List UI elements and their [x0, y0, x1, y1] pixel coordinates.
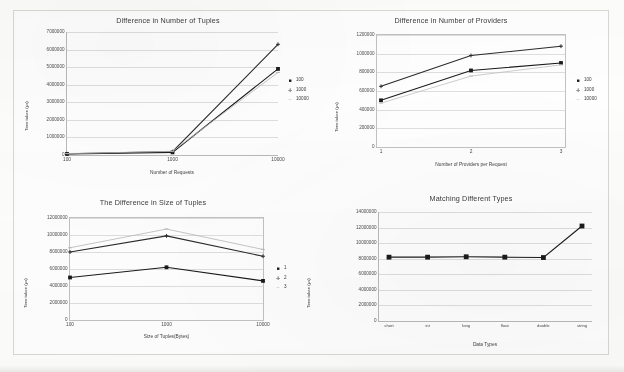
- x-axis-tick: 100: [63, 158, 71, 163]
- x-axis-label: Number of Requests: [66, 170, 278, 175]
- series-line: [381, 46, 561, 86]
- chart-title: Difference in Number of Providers: [340, 16, 562, 25]
- y-axis-tick: 5000000: [47, 65, 65, 70]
- data-point-marker: [387, 255, 392, 260]
- legend-label: 100: [584, 78, 592, 83]
- data-point-marker: [469, 54, 473, 58]
- legend-marker-icon: ■: [286, 78, 294, 83]
- y-axis-tick: 600000: [359, 89, 374, 94]
- y-axis-tick: 8000000: [50, 250, 68, 255]
- series-line: [70, 236, 263, 256]
- x-axis-tick: string: [577, 324, 587, 328]
- x-axis-tick: float: [501, 324, 509, 328]
- y-axis-tick: 12000000: [356, 225, 376, 230]
- series-line: [67, 72, 278, 153]
- data-point-marker: [469, 69, 473, 73]
- legend-label: 1000: [296, 88, 306, 93]
- data-point-marker: [261, 254, 265, 258]
- legend-item[interactable]: ■1: [274, 266, 287, 271]
- legend-label: 10000: [296, 97, 309, 102]
- y-axis-tick: 800000: [359, 70, 374, 75]
- y-axis-tick: 0: [374, 319, 377, 324]
- y-axis-tick: 4000000: [50, 284, 68, 289]
- series-line: [70, 267, 263, 281]
- data-point-marker: [464, 254, 469, 259]
- legend-item[interactable]: ■100: [286, 78, 309, 83]
- x-axis-tick: 2: [470, 150, 473, 155]
- chart-title: Matching Different Types: [350, 194, 592, 203]
- x-axis-tick: 1000: [167, 158, 178, 163]
- chart-difference-in-number-of-providers: Difference in Number of Providers Time t…: [330, 16, 612, 188]
- y-axis-tick: 3000000: [47, 100, 65, 105]
- series-layer: [67, 32, 278, 155]
- legend-label: 1000: [584, 88, 594, 93]
- legend-marker-icon: ✛: [274, 276, 282, 281]
- legend-item[interactable]: ✛2: [274, 276, 287, 281]
- y-axis-tick: 7000000: [47, 30, 65, 35]
- chart-the-difference-in-size-of-tuples: The Difference in Size of Tuples Time ta…: [18, 198, 318, 358]
- legend-marker-icon: ■: [274, 266, 282, 271]
- y-axis-tick: 2000000: [50, 301, 68, 306]
- legend-item[interactable]: ✛1000: [574, 88, 597, 93]
- x-axis-tick: 1000: [161, 323, 172, 328]
- y-axis-tick: 14000000: [356, 210, 376, 215]
- data-point-marker: [276, 67, 280, 71]
- page-bottom-shadow: [0, 365, 624, 372]
- chart-matching-different-types: Matching Different Types Time taken (µs)…: [330, 194, 612, 358]
- y-axis-tick: 4000000: [359, 288, 377, 293]
- chart-legend: ■100✛1000–10000: [286, 78, 309, 107]
- legend-marker-icon: –: [274, 285, 282, 290]
- legend-item[interactable]: –10000: [574, 97, 597, 102]
- y-axis-label: Time taken (µs): [24, 101, 29, 131]
- y-axis-tick: 200000: [359, 126, 374, 131]
- x-axis-label: Data Types: [378, 342, 592, 347]
- x-axis-tick: 1: [380, 150, 383, 155]
- plot-area: 0200000040000006000000800000010000000120…: [69, 217, 264, 321]
- legend-item[interactable]: ■100: [574, 78, 597, 83]
- y-axis-tick: 10000000: [47, 233, 67, 238]
- data-point-marker: [559, 61, 563, 65]
- y-axis-tick: 6000000: [47, 47, 65, 52]
- legend-label: 100: [296, 78, 304, 83]
- series-layer: [379, 212, 592, 321]
- data-point-marker: [379, 98, 383, 102]
- series-layer: [70, 218, 263, 320]
- y-axis-tick: 1000000: [357, 51, 375, 56]
- y-axis-tick: 12000000: [47, 216, 67, 221]
- data-point-marker: [165, 265, 169, 269]
- y-axis-tick: 0: [372, 145, 375, 150]
- legend-marker-icon: ■: [574, 78, 582, 83]
- y-axis-tick: 6000000: [359, 272, 377, 277]
- chart-legend: ■100✛1000–10000: [574, 78, 597, 107]
- legend-label: 10000: [584, 97, 597, 102]
- plot-area: 0200000400000600000800000100000012000001…: [376, 34, 566, 148]
- x-axis-tick: 100: [66, 323, 74, 328]
- series-line: [70, 229, 263, 249]
- legend-item[interactable]: –10000: [286, 97, 309, 102]
- x-axis-tick: long: [462, 324, 470, 328]
- legend-item[interactable]: ✛1000: [286, 88, 309, 93]
- data-point-marker: [425, 255, 430, 260]
- y-axis-label-right: Time taken (µs): [306, 278, 311, 308]
- y-axis-label: Time taken (µs): [23, 278, 28, 308]
- chart-title: The Difference in Size of Tuples: [28, 198, 278, 207]
- legend-item[interactable]: –3: [274, 285, 287, 290]
- plot-area: 0100000020000003000000400000050000006000…: [66, 32, 278, 156]
- y-axis-tick: 10000000: [356, 241, 376, 246]
- y-axis-tick: 1200000: [357, 33, 375, 38]
- series-layer: [377, 35, 565, 147]
- legend-marker-icon: ✛: [286, 88, 294, 93]
- y-axis-tick: 4000000: [47, 82, 65, 87]
- data-point-marker: [261, 279, 265, 283]
- data-point-marker: [502, 255, 507, 260]
- scanned-page: Difference in Number of Tuples Time take…: [0, 0, 624, 372]
- x-axis-tick: 3: [560, 150, 563, 155]
- y-axis-tick: 2000000: [359, 303, 377, 308]
- y-axis-tick: 8000000: [359, 256, 377, 261]
- chart-legend: ■1✛2–3: [274, 266, 287, 295]
- data-point-marker: [559, 44, 563, 48]
- chart-title: Difference in Number of Tuples: [18, 16, 318, 25]
- y-axis-label: Time taken (µs): [334, 102, 339, 132]
- data-point-marker: [580, 224, 585, 229]
- series-line: [67, 44, 278, 153]
